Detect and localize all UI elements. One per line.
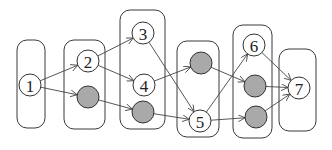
edge-n2-to-n4 [98,65,134,80]
edge-gD-to-n7 [266,86,288,87]
edge-gA-to-gB [99,100,133,109]
node-label: 7 [295,80,304,99]
node-1: 1 [19,74,41,96]
gray-node-circle [77,86,99,108]
gray-node-circle [190,52,212,74]
node-5: 5 [189,110,211,132]
node-label: 4 [140,77,149,96]
edge-gE-to-n7 [265,94,290,111]
node-3: 3 [132,22,154,44]
edge-n1-to-n2 [40,65,78,81]
edge-n2-to-n3 [98,38,133,56]
hidden-node-gD [244,75,266,97]
node-label: 2 [84,53,93,72]
node-label: 6 [250,37,259,56]
gray-node-circle [132,101,154,123]
gray-node-circle [244,75,266,97]
edge-n5-to-gE [211,118,245,120]
edge-n1-to-gA [41,87,77,95]
node-7: 7 [288,77,310,99]
node-label: 1 [26,77,35,96]
node-2: 2 [77,50,99,72]
node-4: 4 [133,74,155,96]
layered-graph-diagram: 1234567 [0,0,332,150]
edge-gB-to-n5 [154,114,189,120]
gray-node-circle [245,106,267,128]
edge-n5-to-n6 [206,54,247,112]
node-label: 3 [139,25,148,44]
hidden-node-gC [190,52,212,74]
node-label: 5 [196,113,205,132]
edge-n3-to-n5 [149,42,194,112]
edge-gC-to-gD [211,67,245,81]
edge-n6-to-n7 [262,53,291,81]
hidden-node-gE [245,106,267,128]
node-6: 6 [243,34,265,56]
hidden-node-gA [77,86,99,108]
hidden-node-gB [132,101,154,123]
layer-groups [17,10,316,138]
